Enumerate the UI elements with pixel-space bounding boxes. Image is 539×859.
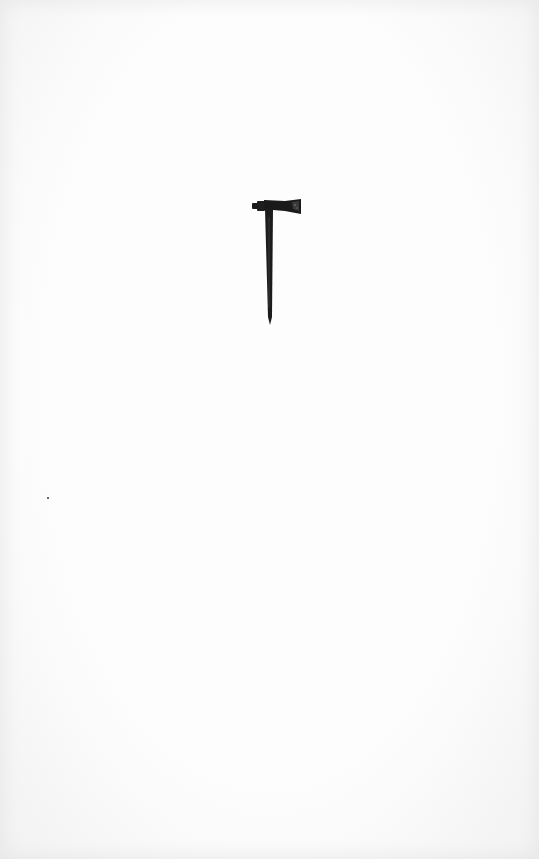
edge-vignette	[0, 0, 539, 859]
dust-speck	[47, 497, 49, 499]
pipe-tomahawk	[251, 197, 303, 327]
photograph	[0, 0, 539, 859]
